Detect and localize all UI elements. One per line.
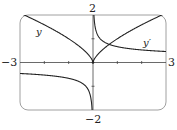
y-min-label: −2: [85, 113, 101, 126]
x-max-label: 3: [168, 56, 175, 69]
x-min-label: −3: [1, 56, 17, 69]
chart: −3 3 2 −2 y y′: [0, 0, 177, 130]
origin-point: [92, 61, 95, 64]
series-label-y: y: [35, 26, 42, 37]
series-line-y-prime-left: [20, 73, 93, 114]
series-label-y-prime: y′: [142, 37, 152, 48]
y-max-label: 2: [89, 2, 96, 15]
